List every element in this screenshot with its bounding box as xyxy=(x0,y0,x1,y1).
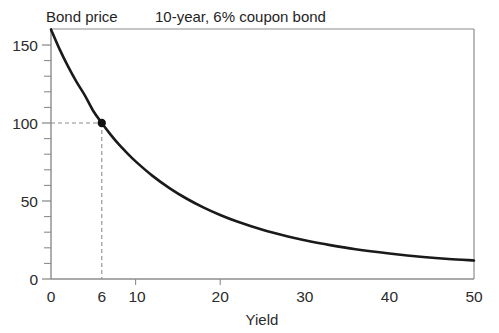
x-axis-title: Yield xyxy=(246,311,279,328)
x-tick-label-20: 20 xyxy=(212,288,230,305)
y-tick-label-100: 100 xyxy=(12,115,38,132)
x-tick-label-50: 50 xyxy=(465,288,483,305)
y-tick-label-0: 0 xyxy=(29,271,38,288)
bond-price-yield-chart: 150 100 50 0 0 6 10 20 30 40 50 Yield Bo… xyxy=(0,0,499,333)
y-tick-label-50: 50 xyxy=(21,193,39,210)
y-tick-label-150: 150 xyxy=(12,37,38,54)
x-tick-label-0: 0 xyxy=(47,288,56,305)
chart-figure: 150 100 50 0 0 6 10 20 30 40 50 Yield Bo… xyxy=(0,0,499,333)
chart-background xyxy=(0,0,499,333)
x-tick-label-40: 40 xyxy=(381,288,399,305)
x-tick-label-6: 6 xyxy=(97,288,106,305)
chart-subtitle: 10-year, 6% coupon bond xyxy=(155,8,326,25)
x-tick-label-30: 30 xyxy=(296,288,314,305)
par-point-marker xyxy=(98,119,106,127)
chart-title: Bond price xyxy=(46,8,118,25)
x-tick-label-10: 10 xyxy=(128,288,146,305)
